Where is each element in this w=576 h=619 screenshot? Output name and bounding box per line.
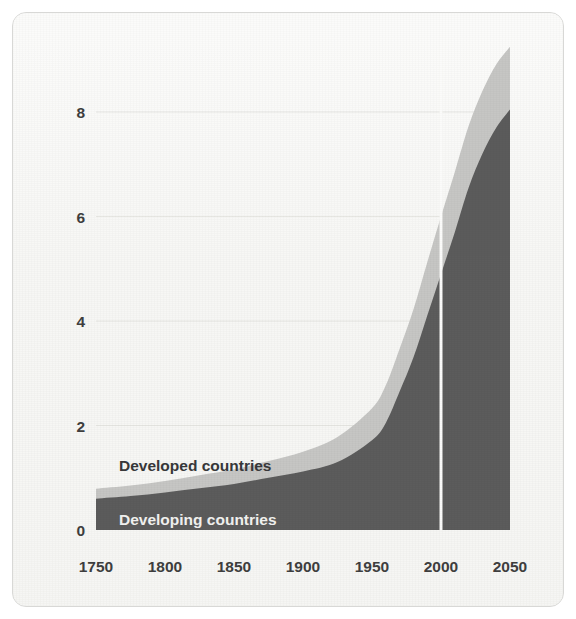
y-tick-label-8: 8 xyxy=(76,104,85,121)
series-label-developed-countries: Developed countries xyxy=(119,457,271,474)
x-tick-label-1850: 1850 xyxy=(217,558,251,575)
chart-card: 8 6 4 2 0 1750 1800 1850 1900 1950 2000 … xyxy=(12,12,564,607)
y-axis-tick-labels: 8 6 4 2 0 xyxy=(76,104,85,539)
chart-stage: 8 6 4 2 0 1750 1800 1850 1900 1950 2000 … xyxy=(13,13,564,607)
y-tick-label-0: 0 xyxy=(76,522,85,539)
x-tick-label-1900: 1900 xyxy=(286,558,320,575)
x-tick-label-1950: 1950 xyxy=(355,558,389,575)
x-tick-label-2000: 2000 xyxy=(424,558,458,575)
y-tick-label-2: 2 xyxy=(76,418,85,435)
series-label-developing-countries: Developing countries xyxy=(119,511,277,528)
y-tick-label-6: 6 xyxy=(76,209,85,226)
x-tick-label-1750: 1750 xyxy=(79,558,113,575)
y-tick-label-4: 4 xyxy=(76,313,85,330)
population-area-chart: 8 6 4 2 0 1750 1800 1850 1900 1950 2000 … xyxy=(12,12,564,607)
x-axis-tick-labels: 1750 1800 1850 1900 1950 2000 2050 xyxy=(79,558,527,575)
x-tick-label-1800: 1800 xyxy=(148,558,182,575)
x-tick-label-2050: 2050 xyxy=(493,558,527,575)
